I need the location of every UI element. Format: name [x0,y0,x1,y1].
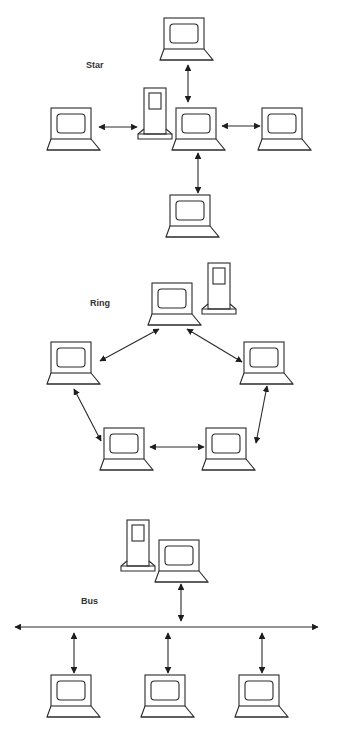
server-icon [138,88,172,139]
bus-topology: Bus [15,520,318,717]
network-topology-diagram: Star Ring Bus [0,0,340,734]
star-label: Star [86,60,104,70]
computer-icon [202,428,255,470]
ring-link-top-right [187,329,242,362]
computer-icon [47,108,100,150]
computer-icon [155,540,208,582]
computer-icon [240,342,293,384]
server-icon [121,520,155,571]
computer-icon [100,428,153,470]
computer-icon [235,675,288,717]
star-topology: Star [47,18,311,237]
ring-topology: Ring [47,263,293,470]
ring-link-bottom-right [256,386,267,443]
computer-icon [160,18,213,60]
ring-label: Ring [90,298,110,308]
bus-label: Bus [81,596,98,606]
computer-icon [141,675,194,717]
computer-icon [47,675,100,717]
computer-icon [172,108,225,150]
server-icon [202,263,236,314]
computer-icon [258,108,311,150]
computer-icon [47,342,100,384]
ring-link-top-left [100,329,159,361]
computer-icon [166,195,219,237]
computer-icon [148,283,201,325]
ring-link-left-bottom [74,389,101,441]
